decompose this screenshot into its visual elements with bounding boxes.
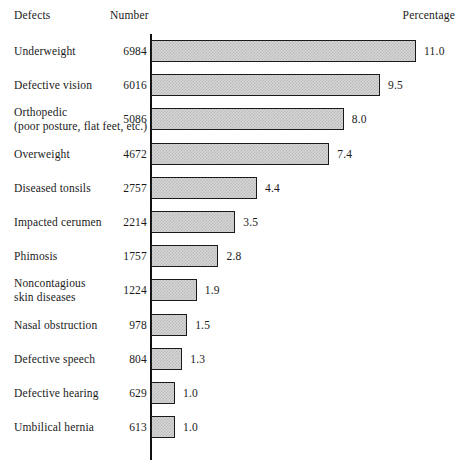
table-row: Umbilical hernia6131.0 — [0, 410, 461, 444]
table-row: Defective vision60169.5 — [0, 68, 461, 102]
bar-percentage-label: 7.4 — [337, 148, 352, 160]
bar-percentage-label: 1.9 — [205, 284, 220, 296]
row-count-value: 804 — [88, 353, 147, 365]
column-header-number: Number — [110, 9, 149, 21]
bar-group: 1.3 — [151, 348, 205, 370]
bar-group: 8.0 — [151, 108, 367, 130]
table-row: Phimosis17572.8 — [0, 239, 461, 273]
table-row: Underweight698411.0 — [0, 34, 461, 68]
table-row: Noncontagiousskin diseases12241.9 — [0, 273, 461, 307]
row-count-value: 1224 — [88, 284, 147, 296]
bar-group: 1.5 — [151, 314, 210, 336]
bar — [151, 74, 380, 96]
row-count-value: 978 — [88, 319, 147, 331]
bar — [151, 108, 344, 130]
bar-percentage-label: 11.0 — [424, 45, 445, 57]
bar — [151, 279, 197, 301]
bar-group: 9.5 — [151, 74, 403, 96]
bar — [151, 143, 329, 165]
bar — [151, 348, 182, 370]
bar-group: 1.0 — [151, 382, 198, 404]
column-header-percentage: Percentage — [403, 9, 455, 21]
bar — [151, 416, 175, 438]
row-count-value: 4672 — [88, 148, 147, 160]
chart-header: Defects Number Percentage — [0, 0, 461, 30]
row-count-value: 6984 — [88, 45, 147, 57]
bar — [151, 177, 257, 199]
bar-group: 11.0 — [151, 40, 445, 62]
row-count-value: 5086 — [88, 113, 147, 125]
row-count-value: 2214 — [88, 216, 147, 228]
bar-group: 7.4 — [151, 143, 352, 165]
bar-percentage-label: 1.3 — [190, 353, 205, 365]
bar-group: 4.4 — [151, 177, 280, 199]
bar — [151, 40, 416, 62]
bar-percentage-label: 1.5 — [195, 319, 210, 331]
bar — [151, 211, 235, 233]
plot-area: Underweight698411.0Defective vision60169… — [0, 30, 461, 467]
table-row: Overweight46727.4 — [0, 137, 461, 171]
table-row: Defective hearing6291.0 — [0, 376, 461, 410]
bar-group: 3.5 — [151, 211, 258, 233]
row-count-value: 6016 — [88, 79, 147, 91]
table-row: Orthopedic(poor posture, flat feet, etc.… — [0, 102, 461, 136]
bar-percentage-label: 9.5 — [388, 79, 403, 91]
bar-group: 2.8 — [151, 245, 241, 267]
bar — [151, 382, 175, 404]
row-count-value: 2757 — [88, 182, 147, 194]
bar — [151, 245, 218, 267]
row-count-value: 1757 — [88, 250, 147, 262]
table-row: Nasal obstruction9781.5 — [0, 308, 461, 342]
bar-percentage-label: 1.0 — [183, 387, 198, 399]
table-row: Defective speech8041.3 — [0, 342, 461, 376]
bar-percentage-label: 8.0 — [352, 113, 367, 125]
bar — [151, 314, 187, 336]
bar-percentage-label: 1.0 — [183, 421, 198, 433]
table-row: Impacted cerumen22143.5 — [0, 205, 461, 239]
bar-percentage-label: 4.4 — [265, 182, 280, 194]
bar-chart: Defects Number Percentage Underweight698… — [0, 0, 461, 467]
table-row: Diseased tonsils27574.4 — [0, 171, 461, 205]
column-header-defects: Defects — [14, 9, 51, 21]
row-count-value: 613 — [88, 421, 147, 433]
bar-percentage-label: 3.5 — [243, 216, 258, 228]
row-count-value: 629 — [88, 387, 147, 399]
bar-group: 1.0 — [151, 416, 198, 438]
bar-group: 1.9 — [151, 279, 220, 301]
bar-percentage-label: 2.8 — [226, 250, 241, 262]
